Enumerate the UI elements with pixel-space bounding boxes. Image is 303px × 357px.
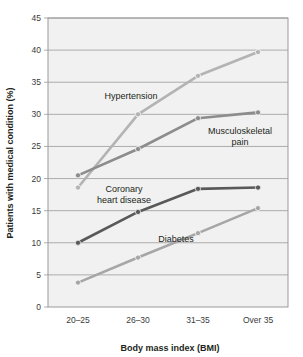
y-tick-label: 20 [32, 174, 42, 184]
data-point [255, 185, 260, 190]
line-chart: 051015202530354045 20–2526–3031–35Over 3… [0, 0, 303, 357]
data-point [135, 255, 140, 260]
data-point [255, 205, 260, 210]
data-point [195, 73, 200, 78]
y-tick-label: 0 [36, 302, 41, 312]
series-label-hypertension: Hypertension [104, 91, 157, 101]
data-point [195, 116, 200, 121]
y-tick-label: 45 [32, 13, 42, 23]
data-point [255, 49, 260, 54]
data-point [135, 209, 140, 214]
data-point [195, 186, 200, 191]
x-axis-title: Body mass index (BMI) [120, 343, 219, 353]
y-tick-label: 35 [32, 77, 42, 87]
data-point [75, 185, 80, 190]
x-tick-label: 31–35 [186, 315, 210, 325]
x-tick-label: 20–25 [66, 315, 90, 325]
y-axis-title: Patients with medical condition (%) [5, 87, 15, 238]
data-point [135, 146, 140, 151]
data-point [255, 110, 260, 115]
y-tick-label: 10 [32, 238, 42, 248]
chart-container: 051015202530354045 20–2526–3031–35Over 3… [0, 0, 303, 357]
x-tick-label: 26–30 [126, 315, 150, 325]
series-label-musculoskeletal-pain: Musculoskeletal [208, 126, 272, 136]
y-axis-ticks: 051015202530354045 [32, 13, 48, 312]
data-point [75, 240, 80, 245]
y-tick-label: 5 [36, 270, 41, 280]
x-tick-label: Over 35 [243, 315, 274, 325]
y-tick-label: 25 [32, 141, 42, 151]
y-tick-label: 15 [32, 206, 42, 216]
series-label-coronary-heart-disease: heart disease [97, 195, 151, 205]
y-tick-label: 30 [32, 109, 42, 119]
x-axis-ticks: 20–2526–3031–35Over 35 [66, 315, 273, 325]
data-point [135, 112, 140, 117]
data-point [75, 280, 80, 285]
plot-area-background [48, 18, 288, 307]
y-tick-label: 40 [32, 45, 42, 55]
data-point [195, 231, 200, 236]
series-label-diabetes: Diabetes [158, 234, 194, 244]
series-label-coronary-heart-disease: Coronary [105, 184, 143, 194]
series-label-musculoskeletal-pain: pain [231, 137, 248, 147]
data-point [75, 173, 80, 178]
